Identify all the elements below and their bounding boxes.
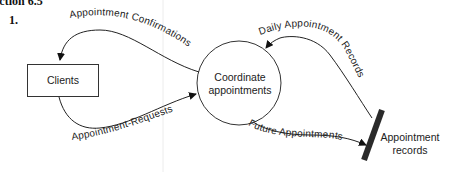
process-label-line1: Coordinate <box>214 71 266 83</box>
clients-label: Clients <box>47 74 79 86</box>
flow-appointment-requests: Appointment-Requests <box>59 94 196 142</box>
confirmations-label: Appointment Confirmations <box>69 6 194 48</box>
future-label: Future Appointments <box>247 117 344 142</box>
flow-appointment-confirmations: Appointment Confirmations <box>60 6 199 72</box>
coordinate-appointments-process: Coordinate appointments <box>197 41 281 125</box>
data-store-bar <box>364 110 382 160</box>
store-label-line2: records <box>392 144 427 156</box>
data-flow-diagram: Clients Coordinate appointments Appointm… <box>0 0 451 172</box>
clients-entity: Clients <box>28 65 99 97</box>
requests-label: Appointment-Requests <box>71 103 174 142</box>
store-label-line1: Appointment <box>381 131 440 143</box>
flow-future-appointments: Future Appointments <box>247 117 366 145</box>
appointment-records-store: Appointment records <box>364 110 440 160</box>
process-label-line2: appointments <box>208 84 271 96</box>
daily-records-arrow <box>266 37 372 118</box>
